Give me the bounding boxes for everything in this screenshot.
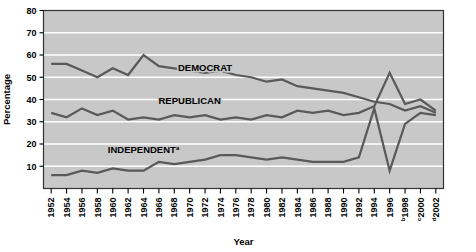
x-axis-tick-label: 1962 [123, 198, 133, 218]
y-axis-tick-label: 70 [26, 28, 36, 38]
y-axis-tick-label: 40 [26, 95, 36, 105]
series-label-independent: INDEPENDENTaINDEPENDENTa [108, 144, 180, 155]
x-axis-tick-label: 1984 [293, 198, 303, 218]
chart-container: 1020304050607080 19521954195619581960196… [0, 0, 476, 252]
x-axis-tick-label: 1966 [154, 198, 164, 218]
svg-text:1964: 1964 [139, 198, 149, 218]
svg-text:1958: 1958 [93, 198, 103, 218]
svg-text:d2002: d2002 [431, 198, 441, 222]
svg-text:INDEPENDENTa: INDEPENDENTa [108, 144, 180, 155]
y-axis-tick-label: 80 [26, 6, 36, 16]
svg-text:c2000: c2000 [416, 198, 426, 221]
svg-text:1984: 1984 [293, 198, 303, 218]
svg-text:1982: 1982 [277, 198, 287, 218]
y-axis-tick-label: 60 [26, 50, 36, 60]
x-axis-tick-label: 1980 [262, 198, 272, 218]
x-axis-tick-label: 1994 [369, 198, 379, 218]
x-axis-tick-label: c2000 [416, 198, 426, 221]
svg-text:1994: 1994 [369, 198, 379, 218]
svg-text:1970: 1970 [185, 198, 195, 218]
x-axis-tick-label: 1978 [246, 198, 256, 218]
x-axis-tick-label: 1992 [354, 198, 364, 218]
x-axis-tick-label: 1952 [46, 198, 56, 218]
x-axis-tick-label: 1968 [169, 198, 179, 218]
x-axis-tick-label: 1982 [277, 198, 287, 218]
svg-text:1976: 1976 [231, 198, 241, 218]
y-axis-tick-label: 10 [26, 162, 36, 172]
party-identification-line-chart: 1020304050607080 19521954195619581960196… [0, 0, 476, 252]
x-axis-tick-label: 1972 [200, 198, 210, 218]
x-axis-tick-label: 1958 [93, 198, 103, 218]
x-axis-tick-label: 1986 [308, 198, 318, 218]
x-axis-tick-label: 1960 [108, 198, 118, 218]
x-axis-tick-label: d2002 [431, 198, 441, 222]
svg-text:1968: 1968 [169, 198, 179, 218]
svg-text:DEMOCRAT: DEMOCRAT [178, 62, 232, 73]
svg-text:1990: 1990 [339, 198, 349, 218]
y-axis-tick-label: 20 [26, 139, 36, 149]
svg-text:1960: 1960 [108, 198, 118, 218]
series-label-democrat: DEMOCRATDEMOCRAT [178, 62, 232, 73]
x-axis-title: Year [233, 236, 253, 247]
x-axis-tick-label: 1974 [216, 198, 226, 218]
y-axis-tick-label: 50 [26, 73, 36, 83]
svg-text:1988: 1988 [323, 198, 333, 218]
y-axis-title: Percentage [1, 74, 12, 125]
svg-text:1966: 1966 [154, 198, 164, 218]
svg-text:1978: 1978 [246, 198, 256, 218]
svg-text:1992: 1992 [354, 198, 364, 218]
x-axis-tick-label: 1964 [139, 198, 149, 218]
x-axis-tick-label: 1954 [62, 198, 72, 218]
svg-text:1956: 1956 [77, 198, 87, 218]
svg-text:REPUBLICAN: REPUBLICAN [159, 95, 221, 106]
svg-text:1954: 1954 [62, 198, 72, 218]
x-axis-tick-label: 1976 [231, 198, 241, 218]
x-axis-tick-label: 1956 [77, 198, 87, 218]
svg-text:1952: 1952 [46, 198, 56, 218]
svg-text:1996: 1996 [385, 198, 395, 218]
svg-text:1962: 1962 [123, 198, 133, 218]
x-axis-tick-label: b1998 [400, 198, 410, 222]
x-axis-tick-label: 1990 [339, 198, 349, 218]
svg-text:b1998: b1998 [400, 198, 410, 222]
svg-text:1974: 1974 [216, 198, 226, 218]
x-axis-tick-label: 1988 [323, 198, 333, 218]
svg-text:1986: 1986 [308, 198, 318, 218]
x-axis-tick-label: 1996 [385, 198, 395, 218]
series-label-republican: REPUBLICANREPUBLICAN [159, 95, 221, 106]
svg-text:1980: 1980 [262, 198, 272, 218]
svg-text:1972: 1972 [200, 198, 210, 218]
y-axis-tick-label: 30 [26, 117, 36, 127]
x-axis-tick-label: 1970 [185, 198, 195, 218]
